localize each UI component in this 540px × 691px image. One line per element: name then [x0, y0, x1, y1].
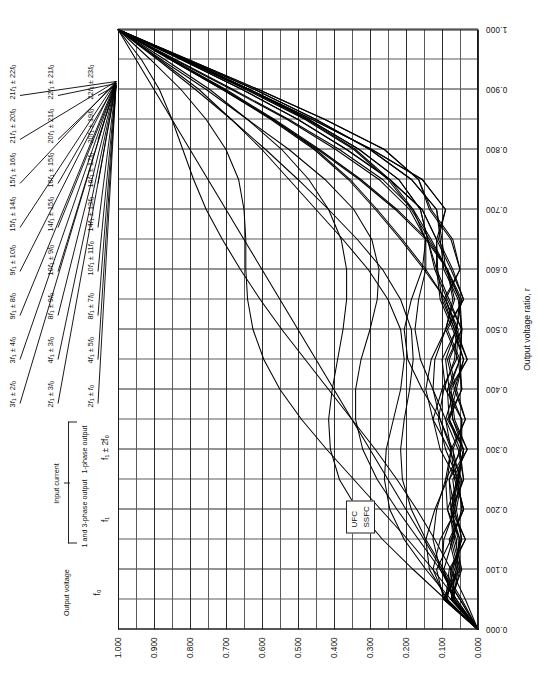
x-tick-text: 0.400 [486, 385, 508, 394]
leader-line [20, 81, 116, 359]
x-tick-label: 0.100 [478, 558, 501, 580]
y-tick-label: 0.400 [330, 637, 339, 658]
x-tick-text: 0.300 [486, 445, 508, 454]
x-tick-text: 0.600 [486, 265, 508, 274]
y-tick-label: 0.000 [474, 637, 483, 658]
y-tick-label: 0.100 [438, 637, 447, 658]
x-tick-label: 1.000 [478, 18, 501, 40]
x-tick-label: 0.500 [478, 318, 501, 340]
header-label-block: Output voltage f₀ Input current 1 and 3-… [0, 9, 118, 629]
legend-ufc: UFC [349, 506, 361, 527]
x-tick-text: 0.700 [486, 205, 508, 214]
x-tick-label: 0.200 [478, 498, 501, 520]
curve-lines [118, 29, 478, 629]
x-tick-text: 0.900 [486, 85, 508, 94]
leader-line [20, 81, 116, 95]
x-axis-title-text: Output voltage ratio, r [522, 288, 532, 371]
x-tick-text: 0.800 [486, 145, 508, 154]
x-tick-text: 1.000 [486, 25, 508, 34]
y-tick-label: 0.200 [402, 637, 411, 658]
x-tick-text: 0.100 [486, 565, 508, 574]
legend-box: UFC SSFC [346, 500, 375, 533]
plot-area: UFC SSFC 0.0000.1000.2000.3000.4000.5000… [118, 29, 478, 629]
x-tick-label: 0.600 [478, 258, 501, 280]
leader-line [20, 81, 116, 183]
y-tick-label: 0.500 [294, 637, 303, 658]
y-tick-label: 0.700 [222, 637, 231, 658]
x-tick-label: 0.400 [478, 378, 501, 400]
y-axis-ticks: 0.0000.1000.2000.3000.4000.5000.6000.700… [118, 633, 478, 687]
legend-ssfc: SSFC [361, 506, 373, 527]
y-tick-label: 0.600 [258, 637, 267, 658]
leader-lines [0, 9, 118, 629]
x-axis-title: Output voltage ratio, r [522, 29, 532, 629]
x-tick-label: 0.700 [478, 198, 501, 220]
x-tick-label: 0.900 [478, 78, 501, 100]
y-tick-label: 0.800 [186, 637, 195, 658]
x-tick-text: 0.200 [486, 505, 508, 514]
y-tick-label: 1.000 [114, 637, 123, 658]
figure-canvas: Output voltage f₀ Input current 1 and 3-… [0, 0, 540, 691]
x-axis-ticks: 0.0000.1000.2000.3000.4000.5000.6000.700… [478, 29, 518, 629]
y-tick-label: 0.300 [366, 637, 375, 658]
x-tick-text: 0.500 [486, 325, 508, 334]
x-tick-label: 0.300 [478, 438, 501, 460]
x-tick-text: 0.000 [486, 625, 508, 634]
y-tick-label: 0.900 [150, 637, 159, 658]
x-tick-label: 0.800 [478, 138, 501, 160]
